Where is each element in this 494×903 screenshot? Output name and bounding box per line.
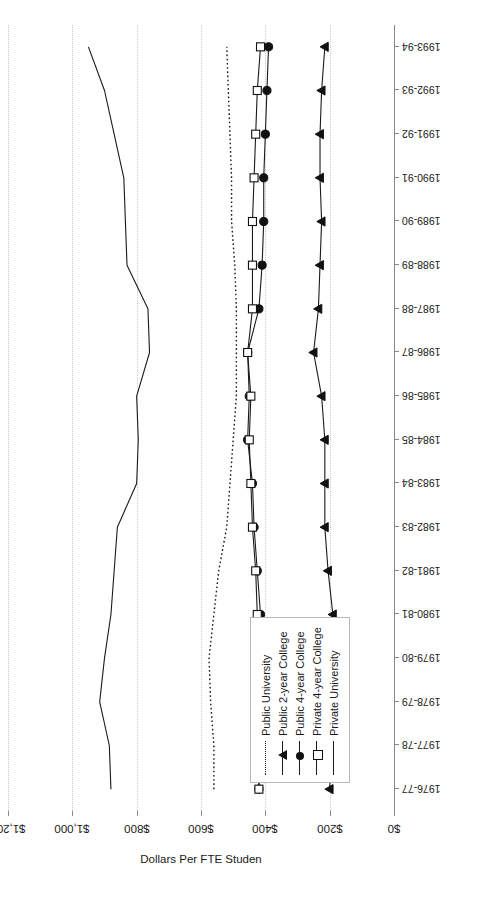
category-tick — [394, 221, 399, 222]
category-label: 1993-94 — [402, 41, 441, 53]
data-point — [258, 261, 266, 269]
value-axis-title: Dollars Per FTE Studen — [140, 853, 261, 865]
data-point — [317, 86, 325, 95]
data-point — [320, 523, 328, 532]
data-point — [309, 348, 317, 357]
value-tick — [394, 811, 395, 816]
legend-label: Private University — [328, 650, 340, 736]
category-tick — [394, 657, 399, 658]
category-label: 1976-77 — [402, 783, 441, 795]
data-point — [263, 86, 271, 94]
data-point — [248, 523, 256, 531]
chart-legend: Public UniversityPublic 2-year CollegePu… — [250, 617, 350, 783]
category-label: 1992-93 — [402, 85, 441, 97]
value-axis-line — [394, 25, 395, 811]
category-tick — [394, 745, 399, 746]
category-label: 1983-84 — [402, 478, 441, 490]
legend-item: Private 4-year College — [308, 627, 325, 775]
category-tick — [394, 439, 399, 440]
legend-key-none-icon — [327, 741, 341, 775]
data-point — [244, 349, 252, 357]
data-point — [315, 173, 323, 182]
category-label: 1991-92 — [402, 128, 441, 140]
legend-item: Private University — [325, 627, 342, 775]
value-tick-label: $0 — [388, 823, 401, 835]
category-label: 1982-83 — [402, 521, 441, 533]
value-tick — [201, 811, 202, 816]
data-point — [247, 392, 255, 400]
category-tick — [394, 133, 399, 134]
category-label: 1985-86 — [402, 390, 441, 402]
legend-key-square-icon — [310, 741, 324, 775]
legend-key-triangle-icon — [276, 741, 290, 775]
value-tick — [330, 811, 331, 816]
legend-label: Public 2-year College — [277, 631, 289, 736]
data-point — [245, 436, 253, 444]
legend-item: Public 2-year College — [274, 627, 291, 775]
category-label: 1987-88 — [402, 303, 441, 315]
data-point — [315, 130, 323, 139]
data-point — [325, 785, 333, 794]
data-point — [248, 218, 256, 226]
data-point — [320, 479, 328, 488]
category-tick — [394, 308, 399, 309]
category-label: 1989-90 — [402, 216, 441, 228]
category-tick — [394, 483, 399, 484]
value-tick-label: $200 — [317, 823, 343, 835]
data-point — [252, 130, 260, 138]
category-label: 1981-82 — [402, 565, 441, 577]
data-point — [253, 87, 261, 95]
category-tick — [394, 177, 399, 178]
data-point — [255, 785, 263, 793]
category-label: 1984-85 — [402, 434, 441, 446]
series-line — [209, 47, 236, 789]
category-label: 1980-81 — [402, 609, 441, 621]
data-point — [315, 261, 323, 270]
category-tick — [394, 90, 399, 91]
category-label: 1986-87 — [402, 347, 441, 359]
data-point — [260, 217, 268, 225]
legend-item: Public 4-year College — [291, 627, 308, 775]
category-tick — [394, 701, 399, 702]
category-tick — [394, 614, 399, 615]
category-tick — [394, 570, 399, 571]
category-tick — [394, 526, 399, 527]
category-label: 1988-89 — [402, 259, 441, 271]
category-tick — [394, 395, 399, 396]
value-tick — [8, 811, 9, 816]
legend-key-none-icon — [259, 741, 273, 775]
data-point — [317, 217, 325, 226]
value-tick-label: $1,200 — [0, 823, 26, 835]
value-tick — [137, 811, 138, 816]
value-tick-label: $400 — [253, 823, 279, 835]
value-tick-label: $600 — [188, 823, 214, 835]
legend-label: Private 4-year College — [311, 627, 323, 736]
category-tick — [394, 788, 399, 789]
category-label: 1978-79 — [402, 696, 441, 708]
legend-key-circle-icon — [293, 741, 307, 775]
data-point — [257, 43, 265, 51]
value-tick-label: $800 — [124, 823, 150, 835]
legend-item: Public University — [257, 627, 274, 775]
series-line — [88, 47, 149, 789]
legend-label: Public 4-year College — [294, 631, 306, 736]
data-point — [252, 567, 260, 575]
data-point — [264, 43, 272, 51]
data-point — [248, 261, 256, 269]
category-tick — [394, 352, 399, 353]
value-tick — [265, 811, 266, 816]
category-tick — [394, 46, 399, 47]
data-point — [247, 480, 255, 488]
data-point — [250, 174, 258, 182]
value-tick — [72, 811, 73, 816]
value-tick-label: $1,000 — [55, 823, 90, 835]
chart-figure: $0$200$400$600$800$1,000$1,200 1976-7719… — [0, 0, 494, 903]
data-point — [261, 130, 269, 138]
category-label: 1990-91 — [402, 172, 441, 184]
data-point — [260, 174, 268, 182]
legend-label: Public University — [260, 655, 272, 736]
category-tick — [394, 264, 399, 265]
category-label: 1977-78 — [402, 740, 441, 752]
data-point — [248, 305, 256, 313]
chart-rotation-wrapper: $0$200$400$600$800$1,000$1,200 1976-7719… — [0, 0, 494, 903]
